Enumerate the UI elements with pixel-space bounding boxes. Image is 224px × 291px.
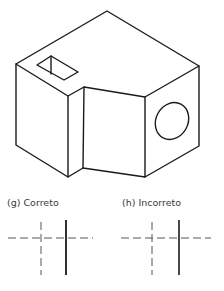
block-notch-face: [68, 87, 84, 177]
circular-hole: [149, 97, 195, 146]
block-right-face: [145, 66, 199, 177]
panel-h-label: (h) Incorreto: [122, 197, 181, 208]
block-left-face: [16, 64, 68, 177]
panel-g-label: (g) Correto: [7, 197, 59, 208]
isometric-block-drawing: [0, 0, 224, 291]
block-top-face: [16, 11, 199, 97]
rectangular-slot: [37, 56, 78, 80]
panel-g-correct: [8, 220, 93, 275]
panel-h-incorrect: [121, 220, 211, 275]
block-front-face: [83, 97, 145, 177]
